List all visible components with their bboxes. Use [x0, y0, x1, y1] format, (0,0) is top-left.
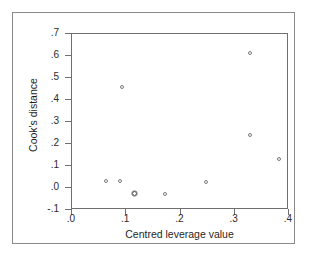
- data-point: [248, 133, 252, 137]
- figure-outer-border: -.1.0.1.2.3.4.5.6.7 .0.1.2.3.4 Centred l…: [12, 12, 295, 244]
- y-tick-mark: [65, 187, 71, 188]
- scatter-plot-figure: -.1.0.1.2.3.4.5.6.7 .0.1.2.3.4 Centred l…: [0, 0, 309, 257]
- x-tick-label: .0: [56, 214, 86, 224]
- data-points-layer: [72, 34, 287, 208]
- data-point: [118, 179, 122, 183]
- plot-canvas: -.1.0.1.2.3.4.5.6.7 .0.1.2.3.4 Centred l…: [1, 1, 309, 257]
- x-tick-label: .4: [273, 214, 303, 224]
- y-tick-mark: [65, 99, 71, 100]
- x-tick-label: .1: [110, 214, 140, 224]
- x-axis-title: Centred leverage value: [71, 228, 288, 240]
- data-point: [277, 157, 281, 161]
- data-point: [248, 51, 252, 55]
- y-tick-label: -.1: [15, 204, 59, 214]
- y-axis-title: Cook's distance: [27, 45, 39, 185]
- y-tick-label: .7: [15, 28, 59, 38]
- data-point: [204, 180, 208, 184]
- x-tick-label: .3: [219, 214, 249, 224]
- y-tick-mark: [65, 121, 71, 122]
- y-tick-mark: [65, 55, 71, 56]
- data-point: [104, 179, 108, 183]
- data-point: [132, 191, 137, 196]
- x-tick-label: .2: [165, 214, 195, 224]
- y-tick-mark: [65, 165, 71, 166]
- y-tick-mark: [65, 143, 71, 144]
- data-point: [120, 85, 124, 89]
- y-tick-mark: [65, 77, 71, 78]
- y-tick-mark: [65, 33, 71, 34]
- plot-frame: [71, 33, 288, 209]
- data-point: [163, 192, 167, 196]
